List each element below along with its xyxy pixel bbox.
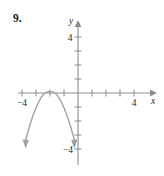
x-axis-pos4-label: 4: [132, 98, 137, 108]
x-axis-neg4-label: −4: [17, 98, 27, 108]
y-axis-arrowhead: [75, 20, 82, 27]
y-axis-neg4-label: −4: [63, 145, 73, 155]
y-axis-variable-label: y: [68, 16, 74, 26]
x-axis-variable-label: x: [150, 96, 156, 106]
y-axis-pos4-label: 4: [68, 33, 73, 43]
coordinate-plot: −4 4 4 −4 y x: [0, 0, 164, 176]
figure-container: 9. −4 4 4 −4: [0, 0, 164, 176]
parabola-left-arrowhead: [23, 140, 29, 149]
parabola-curve: [26, 91, 75, 140]
